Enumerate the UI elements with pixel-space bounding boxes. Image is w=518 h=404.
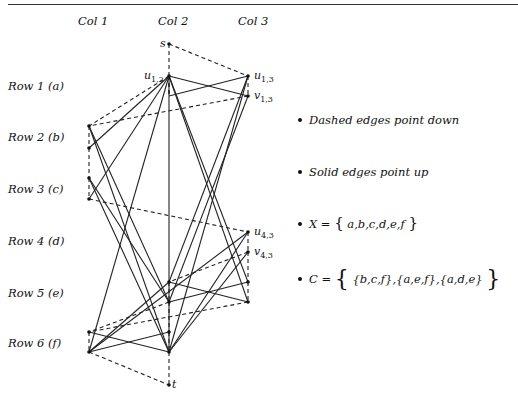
reduction-graph bbox=[0, 0, 518, 404]
solid-edges bbox=[89, 76, 248, 352]
dashed-edge bbox=[169, 44, 248, 76]
node-c1 bbox=[87, 176, 91, 180]
node-u12 bbox=[167, 74, 171, 78]
legend-c-set: C = { {b,c,f},{a,e,f},{a,d,e} } bbox=[298, 266, 500, 291]
bullet-icon bbox=[298, 222, 302, 226]
node-b2 bbox=[87, 146, 91, 150]
bullet-icon bbox=[298, 170, 302, 174]
node-label-u12: u1,2 bbox=[144, 69, 164, 84]
bullet-icon bbox=[298, 118, 302, 122]
node-label-v13: v1,3 bbox=[254, 89, 273, 104]
solid-edge bbox=[89, 126, 169, 302]
solid-edge bbox=[169, 96, 248, 302]
node-label-u43: u4,3 bbox=[254, 225, 274, 240]
solid-edge bbox=[169, 76, 248, 352]
solid-edge bbox=[89, 178, 169, 302]
node-e4 bbox=[246, 300, 250, 304]
node-u43 bbox=[246, 230, 250, 234]
solid-edge bbox=[169, 76, 248, 302]
legend-dashed: Dashed edges point down bbox=[298, 113, 459, 127]
node-f4 bbox=[167, 350, 171, 354]
node-label-u13: u1,3 bbox=[254, 69, 274, 84]
node-e3 bbox=[246, 280, 250, 284]
node-s bbox=[167, 42, 171, 46]
node-label-v43: v4,3 bbox=[254, 245, 273, 260]
node-v13 bbox=[246, 94, 250, 98]
node-t bbox=[167, 383, 171, 387]
node-f2 bbox=[87, 350, 91, 354]
node-c2 bbox=[87, 197, 91, 201]
node-u13 bbox=[246, 74, 250, 78]
node-label-s: s bbox=[160, 37, 166, 50]
node-e2 bbox=[167, 300, 171, 304]
node-e1 bbox=[167, 280, 171, 284]
node-label-t: t bbox=[172, 378, 176, 391]
node-f3 bbox=[167, 330, 171, 334]
legend-x-set: X = { a,b,c,d,e,f } bbox=[298, 214, 418, 232]
legend-solid: Solid edges point up bbox=[298, 165, 428, 179]
node-f1 bbox=[87, 330, 91, 334]
dashed-edge bbox=[89, 352, 169, 385]
bullet-icon bbox=[298, 277, 302, 281]
solid-edge bbox=[89, 178, 169, 352]
node-v43 bbox=[246, 250, 250, 254]
node-b1 bbox=[87, 124, 91, 128]
